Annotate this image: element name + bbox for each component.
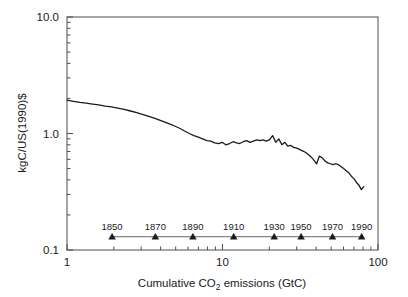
x-axis-label-pre: Cumulative CO <box>138 277 216 289</box>
x-tick-label: 100 <box>368 256 387 268</box>
chart-background <box>0 0 408 297</box>
chart-svg: 0.11.010.0 110100 1850187018901910193019… <box>0 0 408 297</box>
x-axis-label-post: emissions (GtC) <box>221 277 307 289</box>
year-marker-label: 1870 <box>145 221 166 232</box>
year-marker-label: 1890 <box>182 221 203 232</box>
x-tick-label: 1 <box>64 256 70 268</box>
year-marker-label: 1950 <box>290 221 311 232</box>
y-tick-label: 0.1 <box>43 244 59 256</box>
year-marker-label: 1910 <box>223 221 244 232</box>
x-tick-label: 10 <box>216 256 229 268</box>
year-marker-label: 1930 <box>264 221 285 232</box>
y-tick-label: 10.0 <box>37 11 59 23</box>
year-marker-label: 1970 <box>322 221 343 232</box>
year-marker-label: 1990 <box>351 221 372 232</box>
y-axis-label: kgC/US(1990)$ <box>16 93 28 173</box>
year-marker-label: 1850 <box>102 221 123 232</box>
chart-figure: 0.11.010.0 110100 1850187018901910193019… <box>0 0 408 297</box>
y-tick-label: 1.0 <box>43 128 59 140</box>
